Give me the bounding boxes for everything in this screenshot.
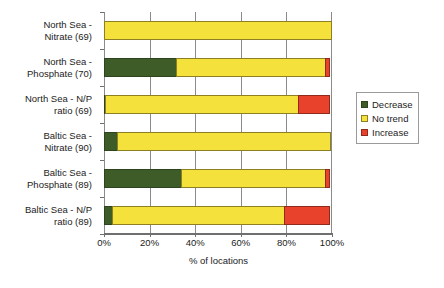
- bar-segment-no-trend[interactable]: [117, 132, 331, 151]
- x-axis-title: % of locations: [104, 255, 333, 266]
- y-axis-label-line: Baltic Sea - N/P: [0, 204, 92, 216]
- y-axis-label-line: North Sea -: [0, 56, 92, 68]
- x-axis-line: [104, 233, 333, 235]
- x-tick-label: 40%: [175, 237, 215, 248]
- bar-segment-decrease[interactable]: [104, 132, 118, 151]
- legend-label: Increase: [372, 127, 408, 138]
- x-tick-label: 20%: [130, 237, 170, 248]
- y-axis-label: North Sea -Phosphate (70): [0, 56, 92, 79]
- bar-segment-increase[interactable]: [284, 206, 330, 225]
- y-axis-label: Baltic Sea -Phosphate (89): [0, 167, 92, 190]
- y-tick: [100, 234, 104, 235]
- y-axis-label-line: North Sea - N/P: [0, 93, 92, 105]
- bar-segment-increase[interactable]: [298, 95, 330, 114]
- bar-row[interactable]: [104, 206, 330, 225]
- bar-segment-decrease[interactable]: [104, 58, 177, 77]
- bar-segment-no-trend[interactable]: [105, 95, 299, 114]
- bar-row[interactable]: [104, 95, 330, 114]
- plot-area: [104, 12, 332, 234]
- legend-swatch-icon: [361, 115, 368, 122]
- y-axis-label-line: Baltic Sea -: [0, 130, 92, 142]
- chart-container: North Sea -Nitrate (69)North Sea -Phosph…: [0, 0, 444, 288]
- y-axis-label-line: Nitrate (69): [0, 31, 92, 43]
- legend-label: Decrease: [372, 99, 413, 110]
- bar-segment-no-trend[interactable]: [112, 206, 285, 225]
- bar-segment-increase[interactable]: [325, 169, 330, 188]
- y-axis-label-line: Nitrate (90): [0, 142, 92, 154]
- gridline: [241, 12, 242, 234]
- legend-label: No trend: [372, 113, 408, 124]
- y-tick: [100, 197, 104, 198]
- x-tick-label: 0%: [84, 237, 124, 248]
- legend-item[interactable]: Increase: [361, 125, 413, 139]
- legend-item[interactable]: Decrease: [361, 97, 413, 111]
- bar-segment-increase[interactable]: [325, 58, 330, 77]
- y-axis-label: Baltic Sea - N/Pratio (89): [0, 204, 92, 227]
- legend-swatch-icon: [361, 129, 368, 136]
- bar-segment-decrease[interactable]: [104, 169, 182, 188]
- y-axis-label: North Sea - N/Pratio (69): [0, 93, 92, 116]
- y-tick: [100, 49, 104, 50]
- gridline: [286, 12, 287, 234]
- y-axis-label-line: ratio (69): [0, 105, 92, 117]
- y-axis-label-line: ratio (89): [0, 216, 92, 228]
- y-tick: [100, 86, 104, 87]
- gridline: [150, 12, 151, 234]
- bar-row[interactable]: [104, 169, 330, 188]
- y-tick: [100, 160, 104, 161]
- y-axis-label-line: Phosphate (70): [0, 68, 92, 80]
- y-axis-label: Baltic Sea -Nitrate (90): [0, 130, 92, 153]
- y-tick: [100, 123, 104, 124]
- bar-segment-no-trend[interactable]: [181, 169, 327, 188]
- legend: DecreaseNo trendIncrease: [356, 92, 419, 144]
- bar-row[interactable]: [104, 21, 332, 40]
- bar-segment-no-trend[interactable]: [104, 21, 332, 40]
- bar-row[interactable]: [104, 132, 331, 151]
- y-axis-label-line: Phosphate (89): [0, 179, 92, 191]
- legend-item[interactable]: No trend: [361, 111, 413, 125]
- x-tick-label: 60%: [221, 237, 261, 248]
- y-axis-label-line: North Sea -: [0, 19, 92, 31]
- legend-swatch-icon: [361, 101, 368, 108]
- bar-segment-no-trend[interactable]: [176, 58, 326, 77]
- y-axis-label-line: Baltic Sea -: [0, 167, 92, 179]
- bar-row[interactable]: [104, 58, 330, 77]
- y-tick: [100, 12, 104, 13]
- x-tick-label: 100%: [312, 237, 352, 248]
- x-tick-label: 80%: [266, 237, 306, 248]
- y-axis-label: North Sea -Nitrate (69): [0, 19, 92, 42]
- gridline: [195, 12, 196, 234]
